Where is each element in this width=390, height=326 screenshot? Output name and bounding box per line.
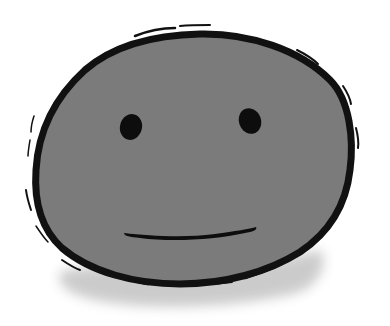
- face-body: [36, 34, 352, 284]
- face-illustration: [0, 0, 390, 326]
- illustration-canvas: [0, 0, 390, 326]
